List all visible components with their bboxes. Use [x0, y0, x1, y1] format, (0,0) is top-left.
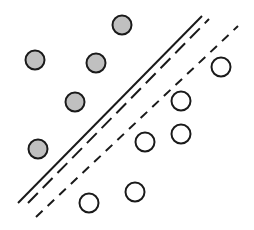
solid-boundary-line [18, 16, 202, 203]
filled-circle-point [29, 140, 48, 159]
hollow-circle-point [126, 183, 145, 202]
hollow-circle-point [172, 125, 191, 144]
hollow-circle-point [136, 133, 155, 152]
svm-diagram [0, 0, 254, 230]
filled-circle-point [66, 93, 85, 112]
hollow-circle-point [80, 194, 99, 213]
hollow-circle-point [212, 58, 231, 77]
hollow-circle-point [172, 92, 191, 111]
class-a-points [26, 16, 132, 159]
filled-circle-point [26, 51, 45, 70]
filled-circle-point [113, 16, 132, 35]
filled-circle-point [87, 54, 106, 73]
class-b-points [80, 58, 231, 213]
